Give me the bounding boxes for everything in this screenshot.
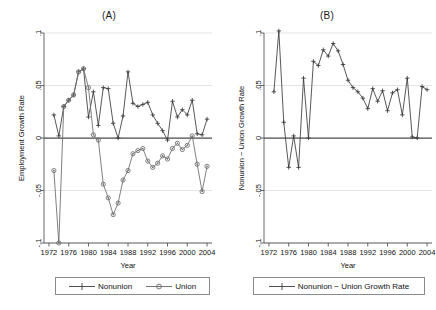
data-point-marker bbox=[160, 154, 164, 158]
data-point-marker bbox=[385, 109, 389, 113]
data-point-marker bbox=[190, 98, 194, 102]
legend-marker-plus-icon bbox=[69, 282, 95, 291]
data-point-marker bbox=[52, 113, 56, 117]
data-point-marker bbox=[170, 99, 174, 103]
y-tick-label: -.1 bbox=[254, 239, 263, 248]
data-point-marker bbox=[111, 121, 115, 125]
data-point-marker bbox=[146, 100, 150, 104]
data-point-marker bbox=[277, 29, 281, 33]
y-tick-label: 0 bbox=[34, 136, 43, 140]
legend-item-nonunion: Nonunion bbox=[69, 282, 132, 291]
data-point-marker bbox=[425, 88, 429, 92]
data-point-marker bbox=[131, 101, 135, 105]
data-point-marker bbox=[180, 147, 184, 151]
x-axis-title: Year bbox=[120, 261, 136, 270]
y-axis-title: Nonunion − Union Growth Rate bbox=[237, 86, 246, 190]
y-axis-title: Employment Growth Rate bbox=[17, 95, 26, 181]
data-point-marker bbox=[395, 88, 399, 92]
data-point-marker bbox=[380, 89, 384, 93]
y-tick-label: -.05 bbox=[254, 184, 263, 197]
data-point-marker bbox=[282, 120, 286, 124]
data-point-marker bbox=[136, 104, 140, 108]
legend-marker-circle-dot-icon bbox=[146, 282, 172, 291]
x-tick-label: 1992 bbox=[359, 248, 376, 257]
series-line bbox=[274, 31, 427, 168]
series-line bbox=[54, 69, 207, 243]
data-point-marker bbox=[185, 143, 189, 147]
panel-a-plot: -.1-.050.05.1197219761980198419881992199… bbox=[0, 0, 218, 310]
panel-b-legend: Nonunion − Union Growth Rate bbox=[253, 277, 425, 295]
y-tick-label: -.1 bbox=[34, 239, 43, 248]
x-tick-label: 2004 bbox=[419, 248, 436, 257]
data-point-marker bbox=[272, 90, 276, 94]
x-tick-label: 1980 bbox=[300, 248, 317, 257]
data-point-marker bbox=[371, 86, 375, 90]
data-point-marker bbox=[165, 157, 169, 161]
data-point-marker bbox=[106, 86, 110, 90]
data-point-marker bbox=[400, 113, 404, 117]
y-tick-label: .05 bbox=[254, 80, 263, 90]
data-point-marker bbox=[415, 136, 419, 140]
x-tick-label: 2000 bbox=[179, 248, 196, 257]
data-point-marker bbox=[126, 70, 130, 74]
data-point-marker bbox=[375, 99, 379, 103]
legend-label-nonunion-minus-union: Nonunion − Union Growth Rate bbox=[298, 282, 409, 291]
data-point-marker bbox=[341, 62, 345, 66]
legend-item-union: Union bbox=[146, 282, 196, 291]
data-point-marker bbox=[121, 114, 125, 118]
data-point-marker bbox=[156, 161, 160, 165]
data-point-marker bbox=[195, 132, 199, 136]
data-point-marker bbox=[390, 91, 394, 95]
data-point-marker bbox=[141, 146, 145, 150]
data-point-marker bbox=[205, 117, 209, 121]
x-tick-label: 1976 bbox=[280, 248, 297, 257]
y-tick-label: .05 bbox=[34, 80, 43, 90]
data-point-marker bbox=[141, 102, 145, 106]
data-point-marker bbox=[306, 136, 310, 140]
y-tick-label: .1 bbox=[254, 30, 263, 36]
data-point-marker bbox=[91, 90, 95, 94]
x-tick-label: 1972 bbox=[41, 248, 58, 257]
data-point-marker bbox=[175, 141, 179, 145]
x-tick-label: 1992 bbox=[139, 248, 156, 257]
x-tick-label: 1988 bbox=[120, 248, 137, 257]
data-point-marker bbox=[101, 85, 105, 89]
y-tick-label: 0 bbox=[254, 136, 263, 140]
x-axis-title: Year bbox=[340, 261, 356, 270]
x-tick-label: 1996 bbox=[379, 248, 396, 257]
x-tick-label: 1984 bbox=[100, 248, 117, 257]
data-point-marker bbox=[146, 159, 150, 163]
data-point-marker bbox=[405, 76, 409, 80]
x-tick-label: 1980 bbox=[80, 248, 97, 257]
x-tick-label: 1988 bbox=[340, 248, 357, 257]
figure-container: (A) -.1-.050.05.119721976198019841988199… bbox=[0, 0, 436, 310]
legend-label-nonunion: Nonunion bbox=[98, 282, 132, 291]
panel-a: (A) -.1-.050.05.119721976198019841988199… bbox=[0, 0, 218, 310]
x-tick-label: 2004 bbox=[199, 248, 216, 257]
data-point-marker bbox=[96, 123, 100, 127]
x-tick-label: 1972 bbox=[261, 248, 278, 257]
x-tick-label: 1984 bbox=[320, 248, 337, 257]
panel-b: (B) -.1-.050.05.119721976198019841988199… bbox=[218, 0, 436, 310]
legend-item-nonunion-minus-union: Nonunion − Union Growth Rate bbox=[269, 282, 409, 291]
data-point-marker bbox=[151, 165, 155, 169]
y-tick-label: .1 bbox=[34, 30, 43, 36]
data-point-marker bbox=[151, 113, 155, 117]
y-tick-label: -.05 bbox=[34, 184, 43, 197]
data-point-marker bbox=[116, 136, 120, 140]
data-point-marker bbox=[420, 84, 424, 88]
legend-label-union: Union bbox=[175, 282, 196, 291]
data-point-marker bbox=[86, 115, 90, 119]
data-point-marker bbox=[200, 133, 204, 137]
panel-b-plot: -.1-.050.05.1197219761980198419881992199… bbox=[218, 0, 436, 310]
x-tick-label: 1996 bbox=[159, 248, 176, 257]
x-tick-label: 2000 bbox=[399, 248, 416, 257]
data-point-marker bbox=[287, 165, 291, 169]
data-point-marker bbox=[170, 146, 174, 150]
x-tick-label: 1976 bbox=[60, 248, 77, 257]
data-point-marker bbox=[301, 76, 305, 80]
legend-marker-plus-icon bbox=[269, 282, 295, 291]
data-point-marker bbox=[296, 165, 300, 169]
data-point-marker bbox=[136, 149, 140, 153]
panel-a-legend: Nonunion Union bbox=[55, 277, 210, 295]
